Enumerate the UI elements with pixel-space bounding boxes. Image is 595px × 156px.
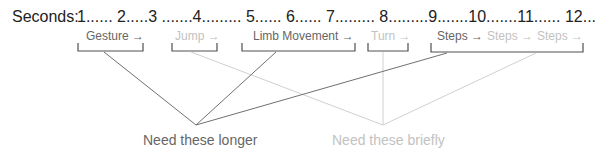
bracket-jump	[172, 43, 217, 51]
connector-diagram	[0, 0, 595, 156]
line-steps-to-longer	[196, 53, 447, 125]
brackets	[78, 43, 583, 52]
bracket-limb-movement	[242, 43, 355, 51]
longer-connectors	[104, 52, 447, 125]
line-limb-to-longer	[196, 52, 276, 125]
bracket-steps	[431, 43, 583, 52]
briefly-connectors	[191, 52, 536, 125]
caption-need-longer: Need these longer	[143, 132, 257, 148]
caption-need-briefly: Need these briefly	[332, 132, 445, 148]
line-jump-to-briefly	[191, 52, 383, 125]
line-steps-to-briefly	[383, 53, 536, 125]
line-gesture-to-longer	[104, 52, 196, 125]
bracket-gesture	[78, 43, 143, 51]
bracket-turn	[368, 43, 408, 51]
